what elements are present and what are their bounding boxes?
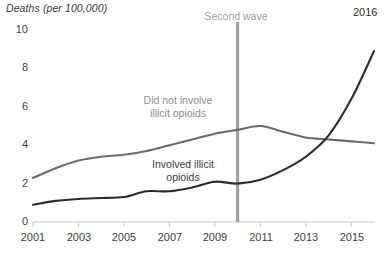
- series-line-did-not-involve-illicit-opioids: [33, 126, 374, 178]
- x-axis-ticks: [33, 222, 351, 227]
- series-line-involved-illicit-opioids: [33, 51, 374, 205]
- chart-plot-area: [0, 0, 387, 257]
- series-lines: [33, 51, 374, 205]
- chart-container: Deaths (per 100,000) 10 8 6 4 2 0 2001 2…: [0, 0, 387, 257]
